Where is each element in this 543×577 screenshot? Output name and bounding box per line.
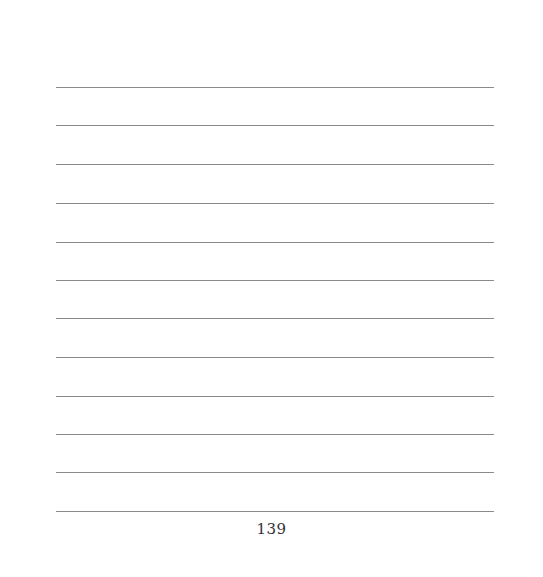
- page-number: 139: [0, 520, 543, 538]
- ruled-line: [56, 242, 494, 243]
- ruled-line: [56, 318, 494, 319]
- ruled-line: [56, 511, 494, 512]
- ruled-line: [56, 357, 494, 358]
- ruled-line: [56, 396, 494, 397]
- ruled-line: [56, 280, 494, 281]
- notebook-page: 139: [0, 0, 543, 577]
- ruled-line: [56, 87, 494, 88]
- ruled-line: [56, 203, 494, 204]
- ruled-line: [56, 125, 494, 126]
- ruled-line: [56, 472, 494, 473]
- ruled-line: [56, 164, 494, 165]
- ruled-line: [56, 434, 494, 435]
